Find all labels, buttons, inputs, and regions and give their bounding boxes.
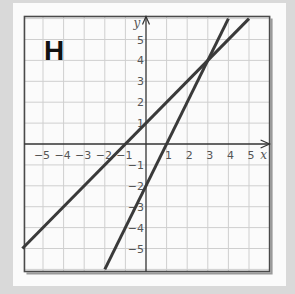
y-tick-label: 3: [137, 75, 144, 88]
x-tick-label: −4: [54, 149, 70, 162]
coordinate-plane-chart: −5−4−3−2−112345−5−4−3−2−112345xy H: [0, 0, 295, 294]
x-tick-label: 1: [165, 149, 172, 162]
x-tick-label: 4: [227, 149, 234, 162]
x-tick-label: −3: [75, 149, 91, 162]
y-axis-label: y: [133, 16, 141, 30]
x-tick-label: 5: [248, 149, 255, 162]
x-axis-label: x: [260, 148, 267, 162]
tick-labels: −5−4−3−2−112345−5−4−3−2−112345xy: [34, 16, 267, 256]
y-tick-label: −5: [128, 243, 144, 256]
x-tick-label: 3: [206, 149, 213, 162]
y-tick-label: 2: [137, 96, 144, 109]
panel-letter-label: H: [44, 35, 64, 66]
y-tick-label: 4: [137, 54, 144, 67]
y-tick-label: 5: [137, 34, 144, 47]
y-tick-label: −4: [128, 222, 144, 235]
y-tick-label: −1: [128, 159, 144, 172]
x-tick-label: −5: [34, 149, 50, 162]
x-tick-label: 2: [186, 149, 193, 162]
y-tick-label: −2: [128, 180, 144, 193]
